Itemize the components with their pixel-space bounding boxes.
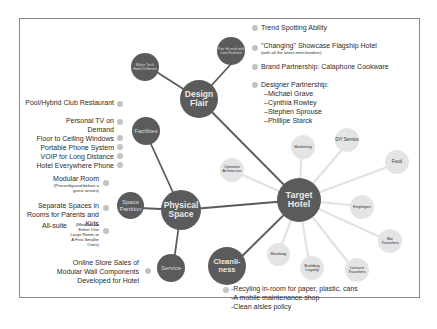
node-label: Pair Hi-end with Low Fashion xyxy=(217,47,245,55)
node-label: Facilities xyxy=(134,128,157,134)
node-diy-service: DIY Service xyxy=(335,128,359,152)
node-label: Building Loyalty xyxy=(300,264,324,273)
facility-item: Hotel Everywhere Phone xyxy=(37,161,114,170)
node-label: Target Hotel xyxy=(277,191,321,210)
bullet-icon xyxy=(117,162,123,168)
node-label: Service xyxy=(161,265,181,271)
cleanliness-item: -Recyling in-room for paper, plastic, ca… xyxy=(231,284,358,293)
node-cleanliness: Cleanli-ness xyxy=(208,247,246,285)
node-label: Make Tech Hotel Different xyxy=(131,63,159,71)
designer-name: –Michael Grave xyxy=(264,89,313,98)
partition-item: All-suite xyxy=(42,221,67,230)
node-leisure-travelers: Leisure Travelers xyxy=(345,258,369,282)
node-label: Biz Travelers xyxy=(378,237,402,246)
node-building-loyalty: Building Loyalty xyxy=(300,256,324,280)
bullet-icon xyxy=(252,82,258,88)
node-food: Food xyxy=(385,150,409,174)
cleanliness-item: -A mobile maintenance shop xyxy=(231,293,319,302)
partition-item-note: (Preconfigured before a guest arrives) xyxy=(49,183,99,193)
node-label: Employee xyxy=(353,205,371,209)
bullet-icon xyxy=(117,119,123,125)
partition-item: Modular Room xyxy=(53,174,99,183)
bullet-icon xyxy=(117,135,123,141)
design-flair-bullet: Brand Partnership: Calaphone Cookware xyxy=(261,62,389,71)
node-label: Leisure Travelers xyxy=(345,266,369,275)
designer-name: –Phillipe Starck xyxy=(264,116,312,125)
node-label: Marketing xyxy=(294,145,312,149)
node-label: Space Partition xyxy=(117,199,144,212)
node-facilities: Facilities xyxy=(132,117,160,145)
node-employee: Employee xyxy=(350,195,374,219)
bullet-icon xyxy=(103,228,109,234)
node-label: Design Flair xyxy=(180,90,218,108)
node-label: Operation Architecture xyxy=(220,166,244,174)
node-label: Physical Space xyxy=(161,201,201,219)
facility-item: Floor to Ceiling Windows xyxy=(37,134,114,143)
designer-name: –Stephen Sprouse xyxy=(264,107,322,116)
service-item: Online Store Sales of Modular Wall Compo… xyxy=(49,258,139,285)
node-label: Food xyxy=(392,160,402,165)
node-label: Booking xyxy=(271,252,287,257)
cleanliness-item: -Clean aisles policy xyxy=(231,302,291,311)
node-marketing: Marketing xyxy=(291,135,315,159)
bullet-icon xyxy=(103,205,109,211)
node-space-partition: Space Partition xyxy=(117,192,144,219)
facility-item: VOIP for Long Distance xyxy=(41,152,114,161)
designer-name: –Cynthia Rowley xyxy=(264,98,317,107)
design-flair-bullet: "Changing" Showcase Flagship Hotel xyxy=(261,41,377,50)
node-pair-hi-end-low-fashion: Pair Hi-end with Low Fashion xyxy=(217,37,245,65)
bullet-icon xyxy=(252,64,258,70)
bullet-icon xyxy=(117,144,123,150)
node-service: Service xyxy=(157,254,185,282)
node-make-tech-hotel-different: Make Tech Hotel Different xyxy=(131,53,159,81)
design-flair-bullet: Trend Spotting Ability xyxy=(261,23,327,32)
node-label: Cleanli-ness xyxy=(208,258,246,274)
bullet-icon xyxy=(145,268,151,274)
design-flair-bullet-note: (with all the latest merchandise) xyxy=(261,50,321,55)
facility-item: Pool/Hybrid Club Restaurant xyxy=(24,98,114,107)
node-booking: Booking xyxy=(267,243,290,266)
bullet-icon xyxy=(252,25,258,31)
facility-item: Personal TV on Demand xyxy=(54,116,114,134)
bullet-icon xyxy=(117,101,123,107)
node-design-flair: Design Flair xyxy=(180,80,218,118)
partition-item-note: (Modular for Either One Large Room or A … xyxy=(67,222,99,247)
node-biz-travelers: Biz Travelers xyxy=(378,229,402,253)
node-operation-architecture: Operation Architecture xyxy=(220,158,244,182)
design-flair-bullet: Designer Partnership: xyxy=(261,80,329,89)
node-physical-space: Physical Space xyxy=(161,190,201,230)
facility-item: Portable Phone System xyxy=(40,143,114,152)
bullet-icon xyxy=(252,45,258,51)
node-label: DIY Service xyxy=(335,138,359,143)
node-target-hotel: Target Hotel xyxy=(277,178,321,222)
bullet-icon xyxy=(103,180,109,186)
bullet-icon xyxy=(117,153,123,159)
bullet-icon xyxy=(223,287,229,293)
